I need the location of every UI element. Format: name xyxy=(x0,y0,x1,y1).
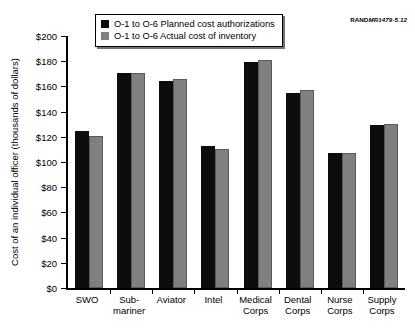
y-axis-tick: $160 xyxy=(61,86,68,87)
y-axis-tick: $140 xyxy=(61,112,68,113)
y-axis-tick: $80 xyxy=(61,187,68,188)
legend-label-actual: O-1 to O-6 Actual cost of inventory xyxy=(114,31,256,41)
rand-report-number: MR1479-5.12 xyxy=(368,16,407,23)
y-axis-tick: $180 xyxy=(61,61,68,62)
y-axis-title: Cost of an individual officer (thousands… xyxy=(9,58,21,266)
x-axis-category-label: Nurse Corps xyxy=(319,294,361,316)
plot-area: $0$20$40$60$80$100$120$140$160$180$200 xyxy=(66,36,405,290)
bar-planned xyxy=(370,125,384,288)
bar-actual xyxy=(300,90,314,288)
y-axis-tick: $40 xyxy=(61,238,68,239)
y-axis-tick-label: $100 xyxy=(36,157,57,168)
x-axis-category-label: SWO xyxy=(66,294,108,305)
y-axis-title-container: Cost of an individual officer (thousands… xyxy=(2,36,28,288)
y-axis-tick: $20 xyxy=(61,263,68,264)
plot-inner: $0$20$40$60$80$100$120$140$160$180$200 xyxy=(68,36,405,288)
bar-planned xyxy=(117,73,131,288)
y-axis-tick: $200 xyxy=(61,36,68,37)
x-axis-category-label: Sub- mariner xyxy=(108,294,150,316)
chart-legend: O-1 to O-6 Planned cost authorizations O… xyxy=(95,14,283,47)
bar-planned xyxy=(75,131,89,289)
y-axis-tick: $60 xyxy=(61,212,68,213)
legend-label-planned: O-1 to O-6 Planned cost authorizations xyxy=(114,19,275,29)
y-axis-tick: $120 xyxy=(61,137,68,138)
bar-actual xyxy=(215,149,229,288)
y-axis-tick-label: $40 xyxy=(41,233,57,244)
y-axis-tick-label: $0 xyxy=(46,283,57,294)
bar-planned xyxy=(244,62,258,288)
y-axis-tick: $0 xyxy=(61,288,68,289)
legend-item-actual: O-1 to O-6 Actual cost of inventory xyxy=(101,30,275,42)
bar-actual xyxy=(131,73,145,288)
bar-planned xyxy=(159,81,173,288)
rand-logo-text: RAND xyxy=(350,16,368,23)
planned-swatch-icon xyxy=(101,20,109,28)
x-axis-category-label: Dental Corps xyxy=(277,294,319,316)
y-axis-tick-label: $200 xyxy=(36,31,57,42)
y-axis-tick-label: $80 xyxy=(41,182,57,193)
bar-actual xyxy=(173,79,187,288)
x-axis-category-label: Aviator xyxy=(150,294,192,305)
bar-planned xyxy=(328,153,342,288)
legend-item-planned: O-1 to O-6 Planned cost authorizations xyxy=(101,18,275,30)
bar-actual xyxy=(342,153,356,288)
figure-container: RANDMR1479-5.12 Cost of an individual of… xyxy=(0,0,415,330)
y-axis-tick-label: $120 xyxy=(36,132,57,143)
bar-actual xyxy=(258,60,272,288)
bar-actual xyxy=(384,124,398,288)
rand-source-id: RANDMR1479-5.12 xyxy=(350,16,407,23)
bar-planned xyxy=(201,146,215,288)
y-axis-tick-label: $60 xyxy=(41,207,57,218)
y-axis-tick: $100 xyxy=(61,162,68,163)
x-axis-category-label: Medical Corps xyxy=(235,294,277,316)
y-axis-tick-label: $140 xyxy=(36,107,57,118)
bar-planned xyxy=(286,93,300,288)
x-axis-category-label: Intel xyxy=(192,294,234,305)
actual-swatch-icon xyxy=(101,32,109,40)
y-axis-tick-label: $160 xyxy=(36,81,57,92)
bar-actual xyxy=(89,136,103,288)
x-axis-category-label: Supply Corps xyxy=(361,294,403,316)
y-axis-tick-label: $180 xyxy=(36,56,57,67)
y-axis-tick-label: $20 xyxy=(41,258,57,269)
